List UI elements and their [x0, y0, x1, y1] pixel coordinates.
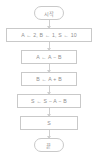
flowchart-diagram: 시작 A ← 2, B ← 1, S ← 10 A ← A − B B ← A …	[0, 0, 98, 167]
flowchart-node-start-label: 시작	[44, 10, 54, 17]
flowchart-connector-start-to-init	[49, 20, 50, 28]
flowchart-node-step-b-label: B ← A + B	[36, 76, 62, 82]
flowchart-node-step-a-label: A ← A − B	[36, 54, 61, 60]
flowchart-node-start: 시작	[34, 6, 64, 20]
flowchart-node-step-b: B ← A + B	[21, 72, 77, 86]
flowchart-node-step-s-label: S ← S − A − B	[31, 98, 67, 104]
flowchart-node-end: 끝	[34, 138, 64, 152]
flowchart-node-step-s: S ← S − A − B	[17, 94, 81, 108]
flowchart-node-step-a: A ← A − B	[21, 50, 77, 64]
flowchart-node-end-label: 끝	[46, 142, 51, 149]
flowchart-connector-init-to-step-a	[49, 42, 50, 50]
flowchart-node-init: A ← 2, B ← 1, S ← 10	[6, 28, 92, 42]
flowchart-connector-step-b-to-step-s	[49, 86, 50, 94]
flowchart-connector-output-to-end	[49, 130, 50, 138]
flowchart-connector-step-a-to-step-b	[49, 64, 50, 72]
flowchart-node-output-label: S	[47, 120, 51, 126]
flowchart-connector-step-s-to-output	[49, 108, 50, 116]
flowchart-node-output: S	[20, 116, 78, 130]
flowchart-node-init-label: A ← 2, B ← 1, S ← 10	[21, 32, 77, 38]
